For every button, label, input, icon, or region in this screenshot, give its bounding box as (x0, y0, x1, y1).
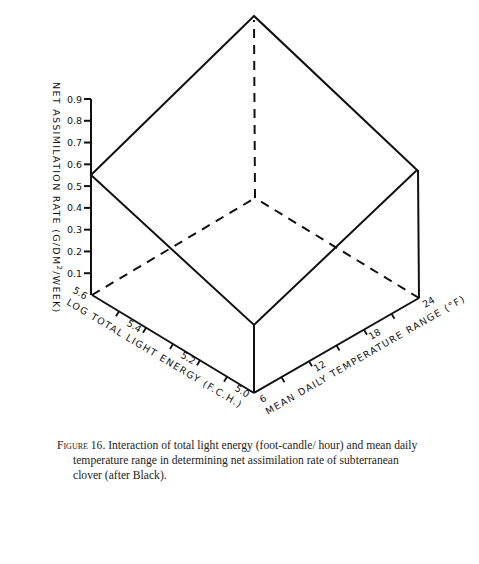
temperature-axis-tick-labels: 6 12 18 24 (258, 294, 437, 405)
z-tick-label: 0.2 (67, 246, 82, 257)
light-axis-tick-labels: 5.6 5.4 5.2 5.0 (71, 284, 252, 399)
light-axis-label: LOG TOTAL LIGHT ENERGY (F.C.H.) (65, 296, 245, 410)
z-tick-label: 0.7 (67, 137, 82, 148)
svg-text:24: 24 (421, 294, 437, 310)
z-tick-label: 0.1 (67, 268, 82, 279)
hidden-edges (92, 20, 419, 298)
temperature-axis-label: MEAN DAILY TEMPERATURE RANGE (°F) (264, 293, 468, 417)
z-tick-label: 0.9 (67, 94, 82, 105)
z-tick-label: 0.5 (67, 181, 82, 192)
z-axis-label: NET ASSIMILATION RATE (G/DM2/WEEK) (51, 82, 63, 314)
chart-figure: 0.10.20.30.40.50.60.70.80.9 NET ASSIMILA… (0, 0, 479, 430)
z-axis-ticks: 0.10.20.30.40.50.60.70.80.9 (67, 94, 91, 279)
svg-text:6: 6 (258, 392, 269, 405)
figure-caption: Figure 16. Interaction of total light en… (57, 438, 457, 483)
z-tick-label: 0.4 (67, 202, 82, 213)
z-axis (84, 99, 91, 295)
z-tick-label: 0.6 (67, 159, 82, 170)
z-tick-label: 0.3 (67, 224, 82, 235)
figure-label: Figure 16. (57, 439, 105, 452)
z-tick-label: 0.8 (67, 115, 82, 126)
